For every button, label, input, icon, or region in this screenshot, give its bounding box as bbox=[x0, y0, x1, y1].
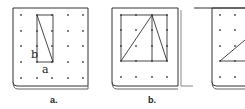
geoboard-c-partial bbox=[178, 8, 245, 89]
geoboard-a bbox=[13, 8, 88, 89]
side-label-a: a bbox=[42, 63, 49, 76]
panel-label-b: b. bbox=[148, 95, 156, 105]
panel-label-a: a. bbox=[50, 95, 58, 105]
geoboard-b bbox=[112, 8, 178, 89]
side-label-b: b bbox=[31, 48, 38, 61]
